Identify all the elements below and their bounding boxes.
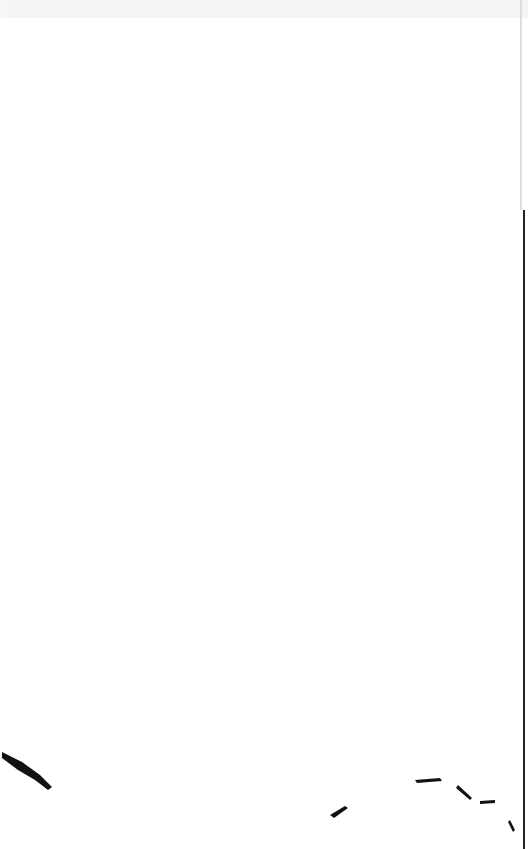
right-edge-faint: [520, 0, 522, 210]
top-edge-shade: [0, 0, 528, 18]
right-edge-line: [523, 210, 525, 849]
torn-edge-fragment: [480, 800, 495, 804]
torn-edge-fragment: [508, 820, 515, 832]
torn-paper-sheet: [0, 0, 528, 849]
paper-body: [0, 18, 528, 849]
torn-paper-graphic: [0, 0, 528, 849]
